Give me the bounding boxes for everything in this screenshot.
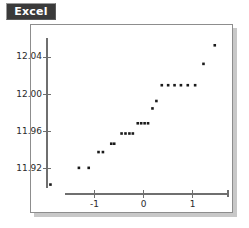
panel-title-label: Excel (14, 6, 47, 17)
excel-plot-screenshot: Excel 11.9211.9612.0012.04-101 (0, 0, 249, 228)
x-tick-label-2: 1 (178, 200, 208, 209)
y-tick-label-0: 11.92 (8, 164, 42, 173)
y-tick-label-2: 12.00 (8, 90, 42, 99)
chart-panel (30, 24, 233, 213)
x-tick-label-1: 0 (129, 200, 159, 209)
panel-title-badge: Excel (6, 3, 56, 20)
y-tick-label-3: 12.04 (8, 52, 42, 61)
x-tick-label-0: -1 (80, 200, 110, 209)
y-tick-label-1: 11.96 (8, 127, 42, 136)
